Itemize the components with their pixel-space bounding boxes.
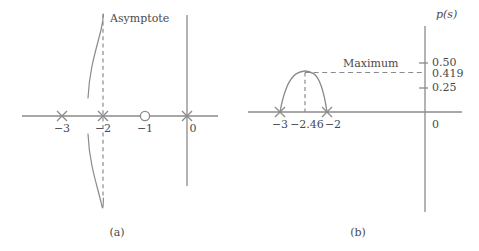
figure-container: Asymptote −3 −2 −1 0 (a) p(s) Maximum 0.… [0, 0, 479, 251]
panel-a-locus-lower-branch [88, 134, 103, 208]
panel-a-tick-label-zero: 0 [190, 122, 197, 135]
panel-a-asymptote-label: Asymptote [110, 12, 169, 25]
panel-b-maximum-label: Maximum [343, 57, 399, 70]
panel-b-xtick-label-neg3: −3 [272, 118, 288, 131]
panel-a-tick-label-neg3: −3 [54, 122, 70, 135]
panel-b-xtick-label-neg246: −2.46 [290, 118, 324, 131]
panel-b-caption: (b) [350, 226, 366, 239]
panel-a-caption: (a) [109, 226, 124, 239]
panel-a [22, 14, 218, 208]
panel-b-xtick-label-neg2: −2 [325, 118, 341, 131]
panel-b-curve [280, 71, 327, 112]
panel-b-ytick-label-zero: 0 [432, 118, 439, 131]
panel-b-ytick-label-0419: 0.419 [432, 67, 464, 80]
panel-a-locus-upper-branch [88, 14, 103, 98]
panel-b-ytick-label-025: 0.25 [432, 81, 457, 94]
panel-a-tick-label-neg2: −2 [95, 122, 111, 135]
panel-a-zero-marker-neg1 [140, 111, 149, 120]
panel-b-y-axis-title: p(s) [436, 8, 457, 21]
figure-svg [0, 0, 479, 251]
panel-a-tick-label-neg1: −1 [137, 122, 153, 135]
